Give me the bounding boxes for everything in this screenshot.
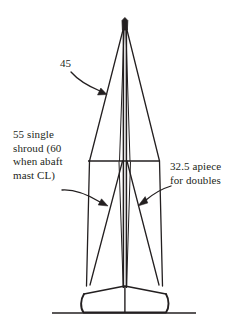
lower-shroud-inner-starboard <box>127 162 131 287</box>
annotation-upper-shroud-size: 45 <box>60 57 71 71</box>
leader-line-right <box>146 186 171 200</box>
lower-shroud-inner-port <box>119 162 123 287</box>
annotation-double-shroud: 32.5 apiece for doubles <box>170 160 246 187</box>
lower-shroud-diagonal-starboard <box>127 161 159 285</box>
masthead-icon <box>122 18 128 31</box>
leader-line-left <box>62 190 100 202</box>
leader-arrowhead-45 <box>98 88 108 95</box>
lower-shroud-diagonal-port <box>90 161 123 285</box>
lower-shroud-outer-starboard <box>160 161 163 286</box>
upper-shroud-port <box>90 24 125 161</box>
annotation-single-shroud: 55 single shroud (60 when abaft mast CL) <box>13 128 91 182</box>
leader-line-45 <box>71 72 100 91</box>
rigging-diagram: 45 55 single shroud (60 when abaft mast … <box>0 0 248 334</box>
leader-arrowhead-right <box>138 197 148 206</box>
upper-shroud-starboard <box>126 24 160 161</box>
leader-arrowhead-left <box>98 199 108 206</box>
